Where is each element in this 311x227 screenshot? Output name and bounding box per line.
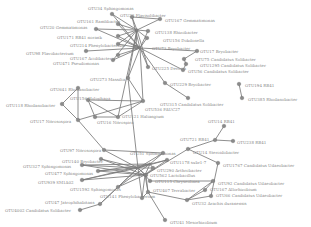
edge [215, 140, 233, 141]
graph-node [165, 158, 169, 162]
graph-node [116, 34, 120, 38]
edge [82, 164, 150, 165]
node-label: OTU16 Nitrospira [97, 120, 134, 125]
node-label: OTU66 Candidatus Udaeobacter [216, 193, 282, 198]
network-diagram: OTU34 SphingomonasOTU23 FlavisolibacterO… [0, 0, 311, 227]
node-label: OTU73 Bryobacter [152, 46, 190, 51]
graph-node [60, 102, 64, 106]
node-label: OTU32 Arachis duranensis [192, 201, 247, 206]
graph-node [186, 147, 190, 151]
graph-node [195, 49, 199, 53]
graph-node [163, 81, 167, 85]
node-label: OTU238 RB41 [237, 140, 266, 145]
graph-node [78, 208, 82, 212]
node-label: OTU75 Candidatus Solibacter [195, 57, 256, 62]
node-label: OTU939 SM1A02 [38, 180, 74, 185]
node-label: OTU229 Bryobacter [170, 82, 211, 87]
node-label: OTU536 FAUC27 [145, 107, 181, 112]
graph-node [98, 202, 102, 206]
node-label: OTU1295 Candidatus Solibacter [200, 63, 266, 68]
graph-node [137, 167, 139, 169]
graph-node [116, 115, 120, 119]
node-label: OTU721 RB41 [180, 137, 209, 142]
edge [96, 29, 137, 30]
node-label: OTU471 Pseudomonas [53, 61, 99, 66]
node-label: OTU477 Sphingomonas [45, 171, 93, 176]
node-label: OTU98 Flavobacterium [26, 51, 74, 56]
node-label: OTU41 Mesorhizobium [170, 220, 217, 225]
edge [239, 84, 242, 98]
node-label: OTU20 Gemmatimonas [40, 25, 87, 30]
node-label: OTU171 RB41 norank [57, 35, 102, 40]
graph-node [163, 218, 167, 222]
node-label: OTU138 Rhizobacter [155, 30, 198, 35]
graph-node [80, 163, 84, 167]
node-label: OTU1592 Sphingomonas [70, 187, 121, 192]
node-label: OTU641 Rhodanobacter [50, 87, 99, 92]
graph-node [231, 139, 235, 143]
edge [80, 204, 100, 210]
graph-node [126, 76, 130, 80]
graph-node [84, 49, 88, 53]
graph-node [146, 29, 150, 33]
node-label: OTU92 Candidatus Udaeobacter [218, 181, 284, 186]
edge [88, 100, 118, 117]
node-label: OTU156 Holophaga [70, 96, 111, 101]
node-label: OTU17 Nitrosospira [30, 119, 72, 124]
node-label: OTU407 Terrabacter [153, 188, 195, 193]
node-label: OTU1178 subr1-7 [170, 160, 207, 165]
edge [215, 126, 224, 140]
graph-node [139, 47, 141, 49]
node-label: OTU97 Nitrosospira [60, 148, 102, 153]
graph-node [158, 17, 162, 21]
graph-node [216, 161, 220, 165]
graph-node [213, 138, 217, 142]
node-label: OTU327 Sphingomonas [23, 164, 71, 169]
node-label: OTU156 Dokdonella [163, 38, 205, 43]
graph-node [76, 118, 80, 122]
graph-node [240, 96, 244, 100]
node-label: OTU14 Steroidobacter [193, 150, 239, 155]
node-label: OTU56 Candidatus Solibacter [188, 69, 249, 74]
graph-node [144, 174, 146, 176]
graph-node [182, 57, 186, 61]
edge [137, 19, 160, 30]
graph-node [134, 45, 138, 49]
graph-node [151, 166, 155, 170]
graph-node [203, 188, 207, 192]
node-label: OTU161 Ramlibacter [77, 19, 120, 24]
node-label: OTU385 Rhodanobacter [248, 97, 297, 102]
node-label: OTU118 Rhodanobacter [6, 103, 55, 108]
graph-node [211, 179, 215, 183]
graph-node [145, 36, 149, 40]
graph-node [141, 99, 145, 103]
node-label: OTU225 Devosia [152, 66, 187, 71]
labels-layer: OTU34 SphingomonasOTU23 FlavisolibacterO… [5, 6, 297, 225]
graph-node [222, 124, 226, 128]
node-label: OTU167 Allorhizobium [210, 187, 257, 192]
node-label: OTU34 Sphingomonas [88, 6, 134, 11]
node-label: OTU51 Sphingomonas [130, 151, 176, 156]
graph-node [111, 58, 115, 62]
node-label: OTU17 Bryobacter [200, 49, 238, 54]
node-label: OTU47 Jatrophihabitans [45, 200, 94, 205]
graph-node [110, 12, 114, 16]
edge [140, 48, 143, 101]
node-label: OTU141 Phenylobacterium [100, 194, 155, 199]
graph-node [116, 53, 120, 57]
graph-node [136, 29, 138, 31]
node-label: OTU273 Massilia [90, 77, 126, 82]
graph-node [93, 115, 97, 119]
graph-node [96, 169, 100, 173]
node-label: OTU121 Haliangium [122, 114, 164, 119]
graph-node [80, 178, 84, 182]
node-label: OTU1767 Candidatus Udaeobacter [223, 163, 294, 168]
graph-node [237, 82, 241, 86]
node-label: OTU115 Chryseolinea [155, 179, 200, 184]
graph-node [94, 27, 98, 31]
graph-node [148, 179, 152, 183]
graph-node [102, 148, 106, 152]
node-label: OTU23 Flavisolibacter [120, 13, 166, 18]
node-label: OTU167 Gemmatimonas [165, 18, 215, 23]
graph-node [209, 194, 213, 198]
